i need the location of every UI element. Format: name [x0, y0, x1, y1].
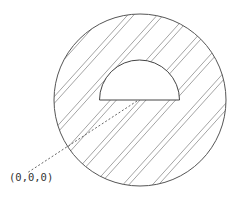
origin-label: (0,0,0)	[9, 171, 53, 183]
origin-leader-line	[27, 101, 137, 173]
diagram-canvas: (0,0,0)	[0, 0, 235, 197]
hatch-line	[86, 10, 235, 197]
